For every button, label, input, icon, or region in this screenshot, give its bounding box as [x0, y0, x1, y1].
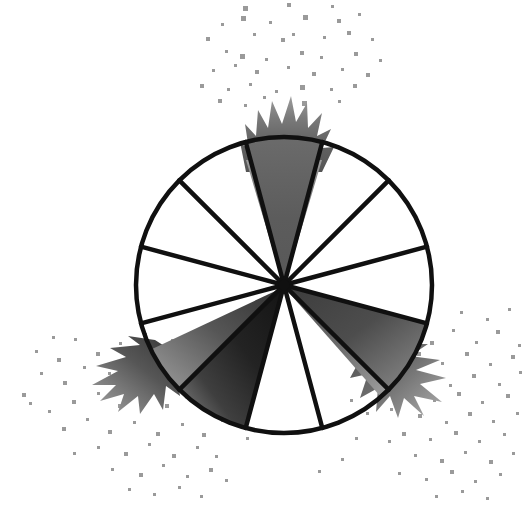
circle-sectors-figure: Twelve-sector circle diagram with three … [0, 0, 530, 512]
figure-root: Twelve-sector circle diagram with three … [0, 0, 530, 512]
figure-background [0, 0, 530, 512]
center-hub [279, 280, 290, 291]
